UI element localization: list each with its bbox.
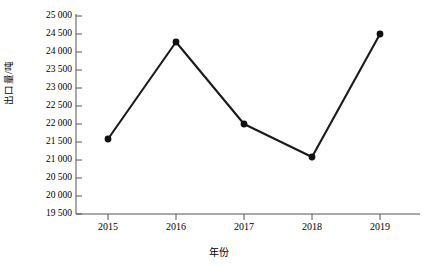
axis-lines bbox=[76, 14, 420, 214]
x-axis-title: 年份 bbox=[0, 244, 439, 259]
data-point bbox=[173, 39, 180, 46]
data-point bbox=[241, 121, 248, 128]
data-line-series-1 bbox=[108, 34, 380, 157]
data-point bbox=[105, 136, 112, 143]
x-tick-label: 2018 bbox=[286, 222, 338, 232]
x-tick-label: 2015 bbox=[82, 222, 134, 232]
data-point bbox=[377, 31, 384, 38]
x-tick-label: 2017 bbox=[218, 222, 270, 232]
x-tick-label: 2016 bbox=[150, 222, 202, 232]
x-axis-ticks bbox=[108, 214, 380, 220]
data-point-markers bbox=[105, 31, 384, 161]
data-point bbox=[309, 154, 316, 161]
line-chart: 出口量/吨 25 000 24 500 24 000 23 500 23 000… bbox=[0, 0, 439, 266]
x-tick-label: 2019 bbox=[354, 222, 406, 232]
y-axis-ticks bbox=[76, 16, 82, 214]
